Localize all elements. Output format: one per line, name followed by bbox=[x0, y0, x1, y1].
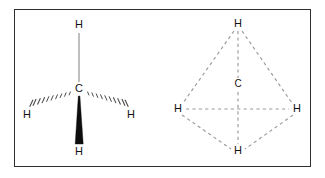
tetra-hydrogen-left: H bbox=[171, 103, 185, 114]
lewis-hydrogen-left: H bbox=[20, 109, 34, 120]
tetra-hydrogen-right: H bbox=[290, 103, 304, 114]
methane-structure-figure: H C H H H H C H H H bbox=[0, 0, 325, 178]
tetra-carbon-center: C bbox=[231, 79, 245, 89]
tetra-hydrogen-apex: H bbox=[231, 18, 245, 29]
lewis-carbon-center: C bbox=[72, 83, 86, 94]
lewis-hydrogen-top: H bbox=[72, 19, 86, 30]
tetrahedron-structure-panel: H C H H H bbox=[155, 0, 325, 178]
lewis-hydrogen-right: H bbox=[124, 109, 138, 120]
wedge-dash-structure-panel: H C H H H bbox=[0, 0, 155, 178]
tetra-hydrogen-front: H bbox=[231, 145, 245, 156]
lewis-hydrogen-bottom: H bbox=[72, 146, 86, 157]
